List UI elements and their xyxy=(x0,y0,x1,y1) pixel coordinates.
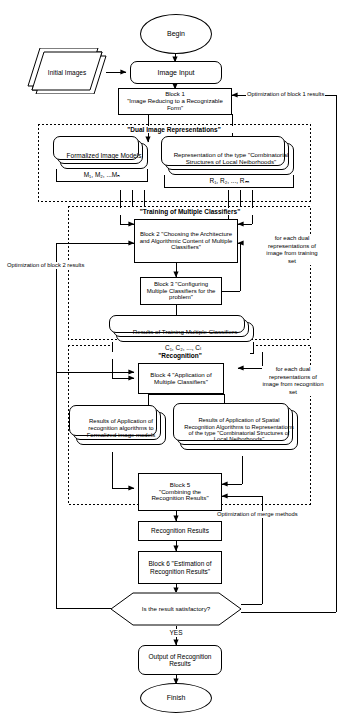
begin-label: Begin xyxy=(167,30,185,38)
opt-merge-label: Optimization of merge methods xyxy=(216,511,299,518)
recognition-group-label: "Recognition" xyxy=(110,352,250,359)
yes-edge-label: YES xyxy=(160,629,192,637)
image-input-node: Image Input xyxy=(130,61,222,84)
block2-node: Block 2 "Choosing the Architecture and A… xyxy=(134,219,238,263)
block2-label: Block 2 "Choosing the Architecture and A… xyxy=(138,231,234,251)
output-node: Output of Recognition Results xyxy=(138,645,222,675)
decision-node: Is the result satisfactory? xyxy=(111,592,241,626)
results-left-label: Results of Application of recognition al… xyxy=(80,418,162,438)
training-set-note: for each dual representations of image f… xyxy=(262,235,322,265)
begin-node: Begin xyxy=(140,14,212,54)
decision-label: Is the result satisfactory? xyxy=(142,606,210,613)
block5-node: Block 5 "Combining the Recognition Resul… xyxy=(138,473,222,511)
block1-title: Block 1 xyxy=(165,91,185,98)
block6-node: Block 6 "Estimation of Recognition Resul… xyxy=(138,551,222,584)
formalized-models-set: M₁, M₂, ...Mₙ xyxy=(56,169,148,182)
recognition-set-note: for each dual representations of image f… xyxy=(262,366,324,396)
block5-body: "Combining the Recognition Results" xyxy=(142,489,218,503)
representation-node: Representation of the type "Combinatoria… xyxy=(168,143,294,175)
image-input-label: Image Input xyxy=(158,69,195,77)
flowchart-canvas: Begin Initial Images Image Input Block 1… xyxy=(0,0,341,715)
block4-label: Block 4 "Application of Multiple Classif… xyxy=(142,372,220,386)
training-group-label: "Training of Multiple Classifiers" xyxy=(100,208,280,215)
output-label: Output of Recognition Results xyxy=(142,653,218,668)
training-results-label: Results of Training Multiple Classifiers xyxy=(133,329,238,336)
block1-body: "Image Reducing to a Recognizable Form" xyxy=(122,98,228,111)
finish-node: Finish xyxy=(140,683,212,713)
initial-images-label: Initial Images xyxy=(48,69,86,76)
formalized-models-node: Formalized Image Models xyxy=(60,143,148,169)
results-right-node: Results of Application of Spatial Recogn… xyxy=(180,410,298,450)
block3-node: Block 3 "Configuring Multiple Classifier… xyxy=(140,277,222,305)
block3-label: Block 3 "Configuring Multiple Classifier… xyxy=(144,281,218,301)
recognition-results-label: Recognition Results xyxy=(151,527,209,534)
dual-representations-group-label: "Dual Image Representations" xyxy=(78,126,270,133)
opt-block2-label: Optimization of block 2 results xyxy=(6,262,85,269)
block4-node: Block 4 "Application of Multiple Classif… xyxy=(138,363,224,394)
results-right-label: Results of Application of Spatial Recogn… xyxy=(184,417,294,443)
representation-label: Representation of the type "Combinatoria… xyxy=(172,152,290,166)
block6-label: Block 6 "Estimation of Recognition Resul… xyxy=(142,560,218,575)
representation-set: R₁, R₂, ..., Rₘ xyxy=(164,175,294,188)
opt-block1-label: Optimization of block 1 results xyxy=(246,91,325,98)
results-left-node: Results of Application of recognition al… xyxy=(76,412,166,445)
finish-label: Finish xyxy=(167,694,186,702)
training-results-node: Results of Training Multiple Classifiers xyxy=(116,322,254,342)
block1-node: Block 1 "Image Reducing to a Recognizabl… xyxy=(118,88,232,115)
formalized-models-label: Formalized Image Models xyxy=(67,152,142,159)
initial-images-node: Initial Images xyxy=(26,48,108,94)
recognition-results-node: Recognition Results xyxy=(138,521,222,541)
